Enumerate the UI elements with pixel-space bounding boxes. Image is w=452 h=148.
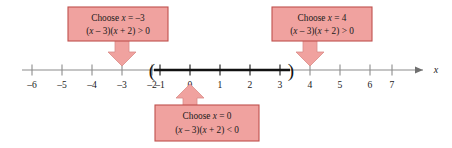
tick-label: 7 — [390, 79, 395, 90]
figure-canvas: ( ) –6 –5 –4 –3 –2 –1 0 1 2 3 4 5 6 7 x — [0, 0, 452, 148]
callout-bottom-line2: (x – 3)(x + 2) < 0 — [175, 125, 239, 136]
tick-label: –4 — [86, 79, 97, 90]
callout-left-line2: (x – 3)(x + 2) > 0 — [86, 26, 150, 37]
callout-bottom-line1: Choose x = 0 — [183, 111, 232, 121]
tick-label: 5 — [338, 79, 343, 90]
tick-label: –6 — [26, 79, 37, 90]
callout-right-line2: (x – 3)(x + 2) > 0 — [290, 26, 354, 37]
tick-label: 6 — [368, 79, 373, 90]
tick-label: 4 — [308, 79, 313, 90]
number-line-figure: ( ) –6 –5 –4 –3 –2 –1 0 1 2 3 4 5 6 7 x — [0, 0, 452, 148]
tick-label: 2 — [248, 79, 253, 90]
tick-label: –3 — [116, 79, 127, 90]
callout-right-line1: Choose x = 4 — [298, 13, 347, 23]
tick-label: –5 — [56, 79, 67, 90]
tick-label: 3 — [278, 79, 283, 90]
tick-label: 1 — [218, 79, 223, 90]
axis-variable-label: x — [433, 64, 439, 75]
interval-right-bracket: ) — [288, 60, 294, 82]
callout-left-line1: Choose x = –3 — [91, 13, 145, 23]
tick-label: –1 — [154, 79, 165, 90]
